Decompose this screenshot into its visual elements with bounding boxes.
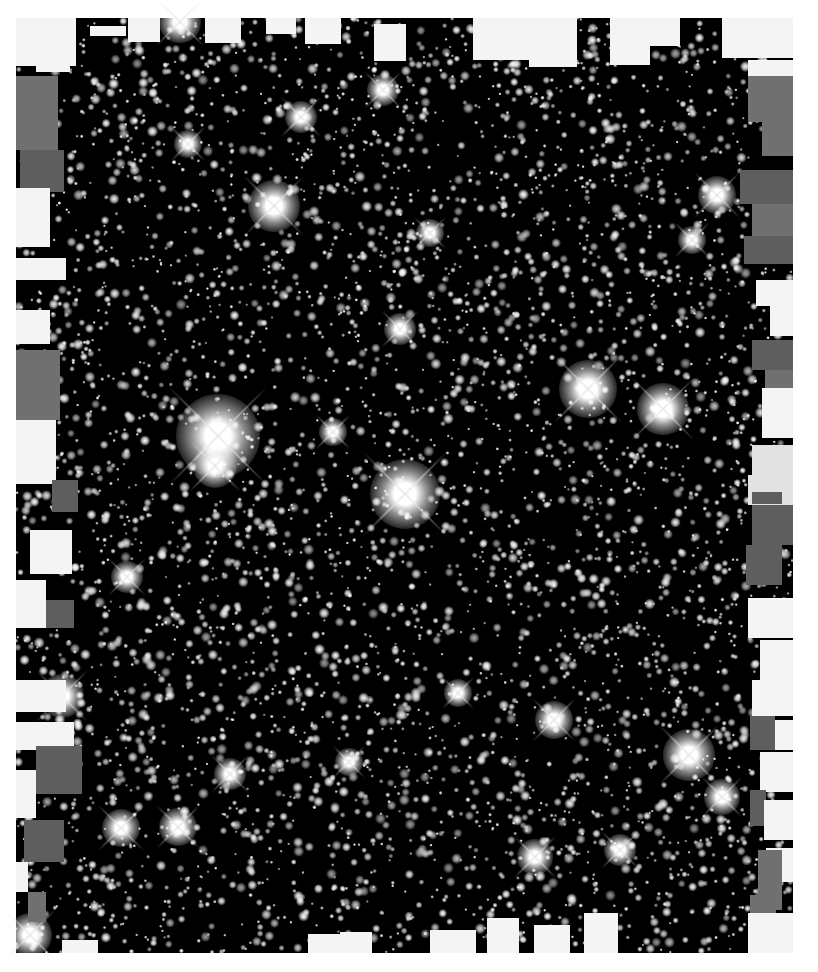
edge-mask-block (16, 420, 56, 484)
edge-mask-block (28, 892, 46, 922)
edge-mask-block (16, 862, 28, 892)
edge-mask-block (30, 530, 72, 574)
edge-mask-block (765, 370, 793, 390)
edge-mask-block (16, 580, 46, 628)
edge-mask-block (16, 350, 60, 420)
edge-mask-block (473, 18, 529, 60)
edge-mask-block (374, 24, 406, 61)
edge-mask-block (340, 932, 372, 953)
edge-mask-block (770, 306, 793, 336)
edge-mask-block (62, 940, 98, 953)
edge-mask-block (430, 930, 476, 953)
edge-mask-block (752, 340, 793, 370)
edge-mask-block (16, 205, 50, 247)
edge-mask-block (760, 640, 793, 680)
edge-mask-block (775, 720, 793, 750)
edge-mask-block (752, 492, 782, 504)
edge-mask-block (266, 18, 296, 34)
edge-mask-block (128, 18, 160, 42)
edge-mask-block (752, 204, 793, 240)
edge-mask-block (36, 44, 70, 72)
edge-mask-block (487, 918, 519, 953)
edge-mask-block (750, 716, 775, 750)
edge-mask-block (744, 236, 793, 264)
edge-mask-block (16, 310, 50, 344)
edge-mask-block (20, 150, 64, 192)
edge-mask-block (752, 445, 793, 475)
edge-mask-block (764, 800, 793, 840)
edge-mask-block (748, 76, 793, 122)
edge-mask-block (52, 480, 78, 512)
edge-mask-block (90, 26, 126, 36)
edge-mask-block (762, 388, 793, 438)
edge-mask-block (529, 18, 577, 67)
edge-mask-block (746, 545, 782, 585)
edge-mask-block (748, 913, 793, 953)
edge-mask-block (205, 18, 241, 43)
edge-mask-block (16, 76, 58, 150)
edge-mask-block (534, 925, 570, 953)
edge-mask-block (16, 258, 66, 280)
edge-mask-block (650, 18, 680, 46)
edge-mask-block (760, 752, 793, 792)
edge-mask-block (308, 934, 342, 953)
edge-mask-block (752, 680, 793, 716)
edge-mask-block (722, 18, 793, 58)
edge-mask-block (46, 600, 74, 628)
edge-mask-block (762, 122, 793, 156)
edge-mask-block (610, 18, 650, 65)
edge-mask-block (584, 913, 618, 953)
edge-mask-block (36, 746, 82, 794)
edge-mask-block (24, 820, 64, 862)
edge-mask-block (756, 280, 793, 306)
edge-mask-block (16, 680, 66, 712)
edge-mask-block (16, 770, 36, 818)
edge-mask-block (305, 18, 341, 44)
edge-mask-block (740, 170, 793, 204)
edge-mask-block (752, 505, 793, 545)
edge-mask-block (748, 598, 793, 638)
